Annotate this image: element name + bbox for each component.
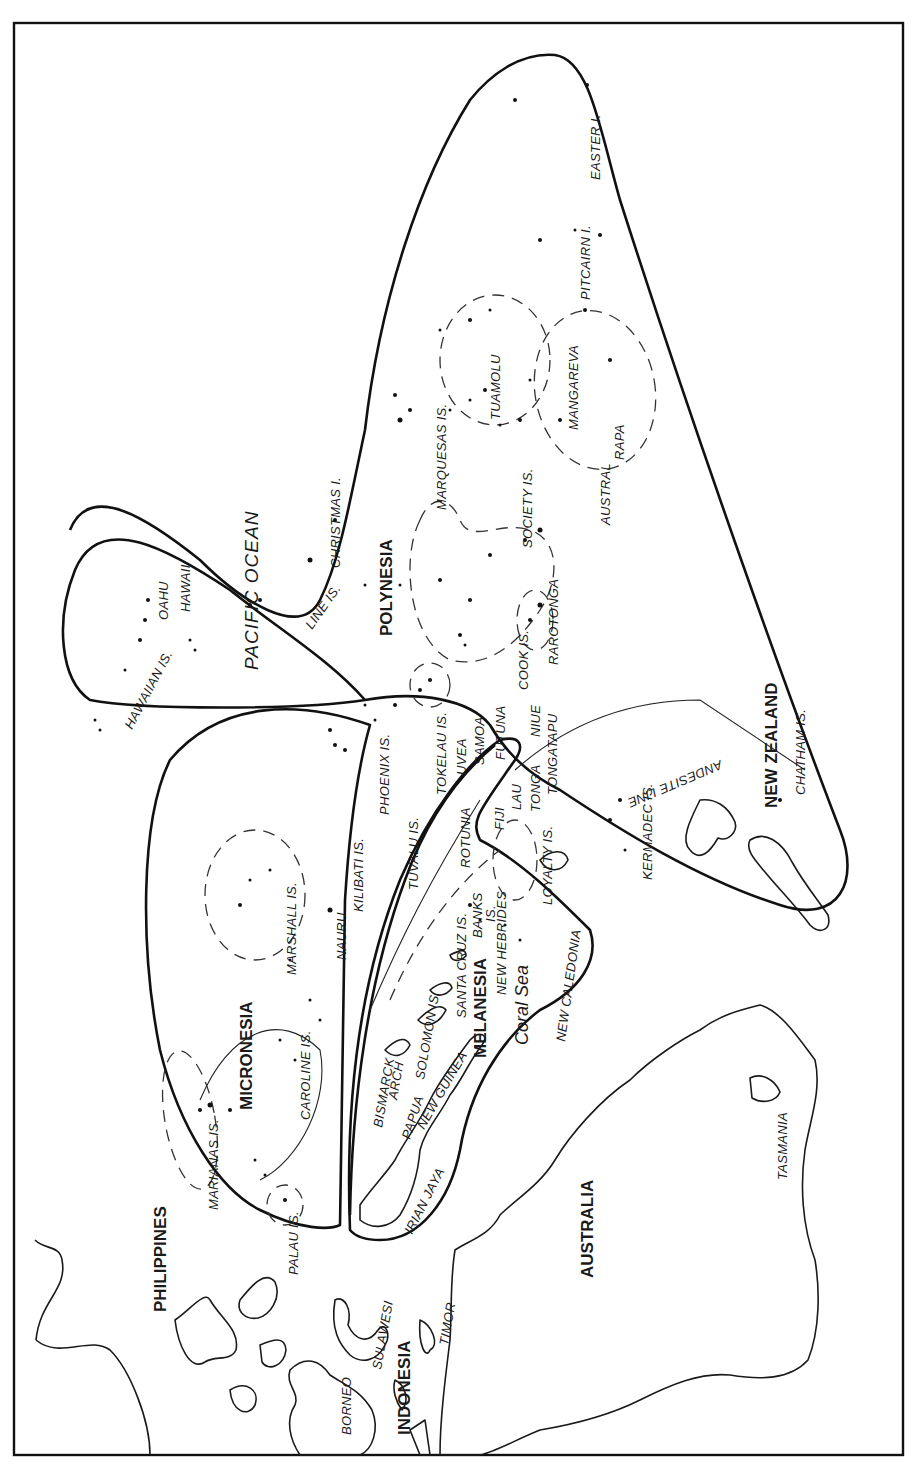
- label-timor: TIMOR: [436, 1301, 458, 1346]
- label-hawaii: HAWAII: [178, 564, 193, 612]
- label-new-caledonia: NEW CALEDONIA: [553, 928, 584, 1042]
- coastline-tasmania: [750, 1076, 780, 1101]
- label-mangareva: MANGAREVA: [566, 345, 581, 430]
- label-new-zealand: NEW ZEALAND: [762, 682, 781, 808]
- label-micronesia: MICRONESIA: [237, 1001, 256, 1110]
- label-niue: NIUE: [528, 705, 543, 737]
- label-oahu: OAHU: [156, 581, 171, 620]
- label-rotunia: ROTUNIA: [458, 807, 473, 868]
- label-tuamolu: TUAMOLU: [488, 354, 503, 420]
- coastline-australia: [440, 1005, 818, 1455]
- label-santa-cruz: SANTA CRUZ IS.: [454, 913, 469, 1018]
- pacific-islands-map: PHILIPPINES INDONESIA AUSTRALIA MICRONES…: [0, 0, 917, 1470]
- label-chatham: CHATHAM IS.: [793, 709, 808, 795]
- label-solomon: SOLOMON IS.: [412, 990, 442, 1081]
- label-polynesia: POLYNESIA: [377, 539, 396, 636]
- label-uvea: UVEA: [454, 738, 469, 775]
- coastline-philippines: [175, 1278, 286, 1412]
- label-society: SOCIETY IS.: [520, 468, 535, 548]
- label-loyalty: LOYALTY IS.: [540, 826, 555, 905]
- label-tuvalu: TUVALU IS.: [406, 817, 421, 890]
- label-marianas: MARIANAS IS.: [206, 1119, 221, 1210]
- label-christmas: CHRISTMAS I.: [328, 477, 343, 568]
- dashed-loyalty: [493, 820, 537, 900]
- label-melanesia: MELANESIA: [471, 958, 490, 1058]
- label-marshall: MARSHALL IS.: [284, 882, 299, 975]
- label-cook: COOK IS.: [516, 630, 531, 690]
- label-palau: PALAU IS.: [286, 1211, 301, 1275]
- label-nauru: NAURU: [334, 912, 349, 960]
- label-tasmania: TASMANIA: [775, 1112, 790, 1180]
- label-pitcairn: PITCAIRN I.: [578, 225, 593, 300]
- label-easter: EASTER I.: [588, 114, 603, 180]
- coastline-new-zealand-north: [686, 800, 736, 856]
- label-coral-sea: Coral Sea: [512, 965, 532, 1045]
- label-marquesas: MARQUESAS IS.: [434, 404, 449, 510]
- label-kermadec: KERMADEC IS.: [640, 783, 655, 880]
- island-dots: [94, 83, 783, 1202]
- label-pacific-ocean: PACIFIC OCEAN: [241, 511, 262, 670]
- label-hawaiian: HAWAIIAN IS.: [121, 648, 175, 732]
- label-kilibati: KILIBATI IS.: [351, 838, 366, 912]
- label-australia: AUSTRALIA: [578, 1180, 597, 1278]
- label-fiji: FIJI: [492, 807, 507, 830]
- boundary-polynesia-upper: [70, 430, 365, 617]
- label-phoenix: PHOENIX IS.: [377, 734, 392, 815]
- coastline-new-zealand-south: [749, 836, 829, 930]
- label-lau: LAU: [509, 783, 524, 810]
- boundary-micronesia: [146, 709, 370, 1228]
- label-rapa: RAPA: [612, 424, 627, 460]
- label-samoa: SAMOA: [472, 717, 487, 765]
- label-philippines: PHILIPPINES: [151, 1206, 170, 1312]
- coastline-asia: [35, 1240, 150, 1455]
- coastline-borneo: [289, 1361, 375, 1455]
- label-rarotonga: RAROTONGA: [546, 579, 561, 665]
- label-indonesia: INDONESIA: [395, 1341, 414, 1435]
- label-new-hebrides: NEW HEBRIDES: [494, 891, 509, 995]
- label-tonga: TONGA: [528, 765, 543, 813]
- boundary-polynesia: [63, 55, 848, 910]
- label-tokelau: TOKELAU IS.: [434, 712, 449, 795]
- label-caroline: CAROLINE IS.: [298, 1030, 313, 1120]
- label-borneo: BORNEO: [339, 1377, 354, 1435]
- label-tongatapu: TONGATAPU: [545, 713, 560, 795]
- label-futuna: FUTUNA: [493, 705, 508, 760]
- label-austral: AUSTRAL: [598, 463, 613, 526]
- label-line-is: LINE IS.: [302, 581, 343, 631]
